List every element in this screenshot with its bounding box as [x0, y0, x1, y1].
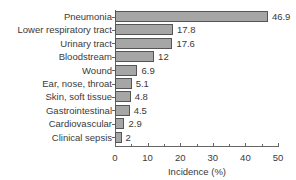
- x-tick-label: 10: [138, 152, 158, 163]
- category-label: Cardiovascular: [49, 118, 112, 129]
- value-label: 6.9: [141, 65, 154, 76]
- x-axis-line: [115, 146, 279, 147]
- x-tick-label: 40: [235, 152, 255, 163]
- category-label: Lower respiratory tract: [17, 24, 112, 35]
- value-label: 2: [126, 132, 131, 143]
- x-tick: [115, 143, 116, 146]
- x-minor-tick: [197, 144, 198, 146]
- category-label: Ear, nose, throat: [42, 78, 112, 89]
- bar: [115, 24, 173, 35]
- x-tick-label: 30: [203, 152, 223, 163]
- y-tick: [112, 110, 115, 111]
- value-label: 17.6: [176, 38, 195, 49]
- bar: [115, 11, 268, 22]
- bar: [115, 118, 124, 129]
- x-axis-title: Incidence (%): [115, 166, 279, 177]
- x-minor-tick: [131, 144, 132, 146]
- y-tick: [112, 137, 115, 138]
- x-minor-tick: [262, 144, 263, 146]
- x-minor-tick: [229, 144, 230, 146]
- x-tick-label: 50: [268, 152, 288, 163]
- bar: [115, 132, 122, 143]
- category-label: Urinary tract: [60, 38, 112, 49]
- x-tick: [245, 143, 246, 146]
- x-tick: [180, 143, 181, 146]
- bar: [115, 105, 130, 116]
- value-label: 5.1: [136, 78, 149, 89]
- x-tick: [148, 143, 149, 146]
- bar: [115, 65, 137, 76]
- bar: [115, 51, 154, 62]
- y-tick: [112, 97, 115, 98]
- bar: [115, 78, 132, 89]
- y-tick: [112, 43, 115, 44]
- value-label: 4.5: [134, 105, 147, 116]
- y-tick: [112, 124, 115, 125]
- value-label: 17.8: [177, 24, 196, 35]
- y-tick: [112, 17, 115, 18]
- y-tick: [112, 30, 115, 31]
- y-tick: [112, 57, 115, 58]
- value-label: 46.9: [272, 11, 291, 22]
- x-minor-tick: [164, 144, 165, 146]
- y-tick: [112, 84, 115, 85]
- y-tick: [112, 70, 115, 71]
- category-label: Wound: [82, 65, 112, 76]
- value-label: 4.8: [135, 91, 148, 102]
- bar-chart: 01020304050 Incidence (%) Pneumonia46.9L…: [0, 0, 296, 180]
- category-label: Skin, soft tissue: [45, 91, 112, 102]
- category-label: Gastrointestinal: [46, 105, 112, 116]
- category-label: Clinical sepsis: [52, 132, 112, 143]
- value-label: 2.9: [128, 118, 141, 129]
- bar: [115, 91, 131, 102]
- bar: [115, 38, 172, 49]
- value-label: 12: [158, 51, 169, 62]
- category-label: Bloodstream: [59, 51, 112, 62]
- category-label: Pneumonia: [64, 11, 112, 22]
- x-tick-label: 20: [170, 152, 190, 163]
- x-tick: [213, 143, 214, 146]
- x-tick: [278, 143, 279, 146]
- x-tick-label: 0: [105, 152, 125, 163]
